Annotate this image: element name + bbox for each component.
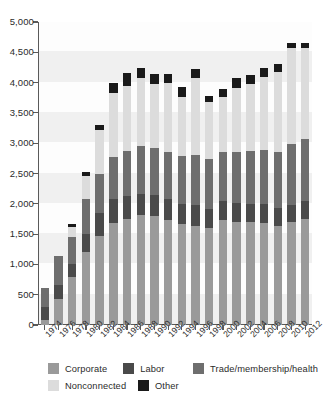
bar-segment-trade-membership-health (137, 146, 145, 194)
stacked-bar-chart: 05001,0001,5002,0002,5003,0003,5004,0004… (0, 0, 326, 403)
y-axis-tick-label: 1,500 (0, 228, 34, 239)
bar-2004 (246, 75, 254, 325)
bar-segment-nonconnected (260, 77, 268, 150)
bar-segment-other (164, 74, 172, 83)
bar-segment-trade-membership-health (109, 157, 117, 199)
bar-segment-labor (109, 199, 117, 223)
bars-layer (38, 22, 312, 325)
bar-segment-labor (301, 201, 309, 219)
legend-swatch (193, 363, 204, 374)
bar-2002 (232, 78, 240, 325)
legend-label: Labor (140, 364, 164, 374)
bar-segment-labor (164, 199, 172, 220)
bar-segment-nonconnected (82, 176, 90, 199)
legend-item-nonconnected[interactable]: Nonconnected (48, 380, 122, 391)
legend-swatch (138, 380, 149, 391)
bar-2008 (274, 64, 282, 325)
bar-segment-other (68, 224, 76, 227)
bar-segment-labor (191, 205, 199, 225)
bar-segment-corporate (164, 220, 172, 325)
bar-segment-labor (137, 194, 145, 215)
bar-segment-labor (82, 234, 90, 252)
bar-segment-corporate (150, 216, 158, 325)
legend-row: CorporateLaborTrade/membership/health (48, 361, 318, 376)
bar-segment-corporate (191, 226, 199, 326)
bar-segment-nonconnected (274, 72, 282, 153)
bar-segment-labor (123, 196, 131, 219)
legend-item-trade-membership-health[interactable]: Trade/membership/health (193, 363, 318, 374)
y-axis-tick-label: 4,000 (0, 77, 34, 88)
bar-segment-trade-membership-health (260, 150, 268, 205)
bar-segment-trade-membership-health (123, 151, 131, 196)
bar-segment-corporate (137, 215, 145, 325)
bar-segment-labor (150, 195, 158, 216)
bar-segment-corporate (246, 222, 254, 325)
bar-segment-corporate (95, 236, 103, 325)
y-axis-tick-label: 5,000 (0, 16, 34, 27)
bar-1988 (137, 68, 145, 325)
bar-segment-nonconnected (301, 48, 309, 140)
bar-1984 (109, 83, 117, 325)
legend-item-labor[interactable]: Labor (123, 363, 177, 374)
bar-segment-other (260, 68, 268, 77)
bar-segment-nonconnected (178, 97, 186, 156)
y-axis-tick-label: 2,500 (0, 168, 34, 179)
bar-segment-nonconnected (232, 88, 240, 152)
bar-segment-other (150, 74, 158, 84)
bar-segment-corporate (260, 223, 268, 325)
bar-1980 (82, 172, 90, 325)
legend-label: Corporate (65, 364, 107, 374)
bar-2006 (260, 68, 268, 325)
bar-segment-other (123, 73, 131, 86)
bar-segment-other (301, 43, 309, 48)
bar-segment-other (137, 68, 145, 78)
bar-segment-other (191, 69, 199, 78)
bar-segment-nonconnected (246, 84, 254, 150)
bar-segment-nonconnected (219, 97, 227, 152)
bar-segment-trade-membership-health (274, 152, 282, 208)
bar-segment-trade-membership-health (68, 237, 76, 264)
bar-segment-labor (246, 204, 254, 222)
y-axis-tick-label: 2,000 (0, 198, 34, 209)
bar-segment-other (178, 87, 186, 97)
bar-segment-corporate (178, 224, 186, 325)
legend-item-corporate[interactable]: Corporate (48, 363, 107, 374)
bar-segment-labor (54, 285, 62, 299)
bar-segment-nonconnected (191, 78, 199, 154)
y-axis-tick-label: 3,500 (0, 107, 34, 118)
bar-segment-corporate (219, 220, 227, 325)
bar-segment-trade-membership-health (219, 152, 227, 201)
bar-1994 (178, 87, 186, 325)
bar-segment-nonconnected (205, 102, 213, 159)
legend-label: Other (155, 381, 179, 391)
bar-segment-other (82, 172, 90, 176)
bar-1992 (164, 74, 172, 325)
bar-1990 (150, 74, 158, 325)
bar-segment-trade-membership-health (178, 156, 186, 204)
bar-segment-corporate (82, 252, 90, 325)
bar-segment-other (109, 83, 117, 93)
y-axis-tick-label: 3,000 (0, 137, 34, 148)
bar-segment-labor (68, 264, 76, 277)
bar-segment-trade-membership-health (191, 155, 199, 206)
bar-segment-labor (232, 203, 240, 222)
bar-segment-corporate (109, 223, 117, 325)
bar-segment-labor (287, 205, 295, 223)
y-axis-tick-label: 4,500 (0, 46, 34, 57)
bar-segment-other (95, 125, 103, 130)
legend-row: NonconnectedOther (48, 378, 318, 393)
bar-segment-other (219, 89, 227, 97)
chart-legend: CorporateLaborTrade/membership/healthNon… (48, 361, 318, 395)
bar-1996 (191, 69, 199, 325)
bar-segment-nonconnected (123, 86, 131, 151)
bar-2010 (287, 43, 295, 325)
bar-segment-trade-membership-health (150, 148, 158, 195)
bar-segment-other (205, 96, 213, 102)
bar-2012 (301, 43, 309, 325)
legend-label: Nonconnected (65, 381, 126, 391)
legend-item-other[interactable]: Other (138, 380, 212, 391)
bar-1974 (41, 288, 49, 325)
legend-swatch (48, 380, 59, 391)
bar-1998 (205, 96, 213, 325)
bar-segment-labor (95, 213, 103, 236)
